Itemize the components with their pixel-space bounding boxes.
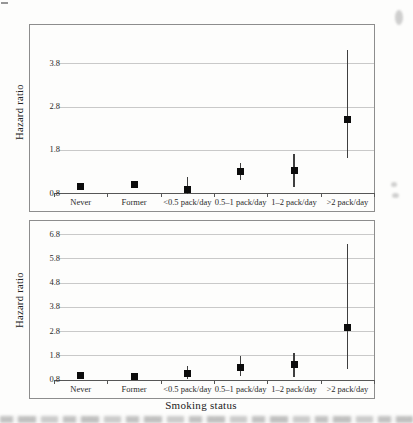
gridline	[58, 150, 374, 151]
category-label: Former	[107, 384, 160, 394]
y-tick-label: 4.8	[38, 278, 60, 287]
category-label: >2 pack/day	[321, 197, 374, 207]
category-label: <0.5 pack/day	[161, 197, 214, 207]
data-point-marker	[77, 183, 84, 190]
category-label: 1–2 pack/day	[267, 197, 320, 207]
category-label: Never	[54, 197, 107, 207]
gridline	[58, 355, 374, 356]
category-label: Former	[107, 197, 160, 207]
data-point-marker	[184, 370, 191, 377]
gridline	[58, 234, 374, 235]
data-point-marker	[237, 364, 244, 371]
category-label: 0.5–1 pack/day	[214, 197, 267, 207]
category-label: 1–2 pack/day	[267, 384, 320, 394]
x-axis-title: Smoking status	[29, 399, 373, 411]
scan-artifact-mark	[392, 193, 399, 198]
data-point-marker	[291, 361, 298, 368]
ci-error-bar	[347, 50, 349, 158]
scan-artifact-mark	[391, 182, 397, 187]
y-tick-label: 1.8	[38, 145, 60, 154]
y-tick-label: 2.8	[38, 102, 60, 111]
data-point-marker	[237, 168, 244, 175]
category-label: 0.5–1 pack/day	[214, 384, 267, 394]
y-axis-title-bottom: Hazard ratio	[14, 272, 25, 328]
hazard-ratio-figure: 0.81.82.83.8NeverFormer<0.5 pack/day0.5–…	[0, 0, 413, 423]
data-point-marker	[131, 373, 138, 380]
ci-error-bar	[347, 244, 349, 369]
data-point-marker	[131, 181, 138, 188]
y-axis-title-top: Hazard ratio	[14, 84, 25, 140]
gridline	[58, 107, 374, 108]
y-tick-label: 6.8	[38, 230, 60, 239]
data-point-marker	[344, 116, 351, 123]
category-label: >2 pack/day	[321, 384, 374, 394]
scan-artifact-mark	[1, 2, 8, 4]
scan-artifact-mark	[395, 10, 403, 25]
gridline	[58, 331, 374, 332]
y-tick-label: 3.8	[38, 59, 60, 68]
cropped-caption-strip	[0, 416, 413, 423]
category-label: <0.5 pack/day	[161, 384, 214, 394]
panel-bottom-frame: 0.81.82.83.84.85.86.8NeverFormer<0.5 pac…	[29, 220, 375, 399]
data-point-marker	[184, 186, 191, 193]
y-tick-label: 2.8	[38, 327, 60, 336]
category-label: Never	[54, 384, 107, 394]
data-point-marker	[77, 372, 84, 379]
gridline	[58, 63, 374, 64]
gridline	[58, 258, 374, 259]
axis-tick	[374, 193, 375, 197]
y-tick-label: 5.8	[38, 254, 60, 263]
y-tick-label: 1.8	[38, 351, 60, 360]
panel-top-frame: 0.81.82.83.8NeverFormer<0.5 pack/day0.5–…	[29, 24, 375, 212]
gridline	[58, 283, 374, 284]
gridline	[58, 307, 374, 308]
data-point-marker	[291, 167, 298, 174]
y-tick-label: 3.8	[38, 302, 60, 311]
axis-tick	[374, 380, 375, 384]
data-point-marker	[344, 324, 351, 331]
